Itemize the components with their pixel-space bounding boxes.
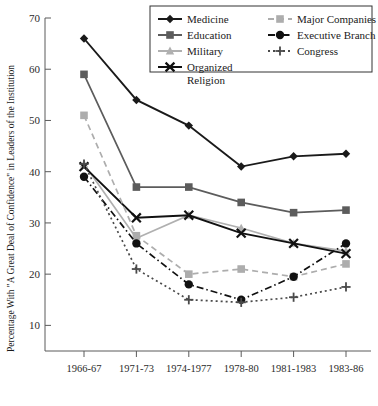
- x-tick-label: 1971-73: [119, 363, 154, 374]
- legend-marker: [166, 15, 174, 23]
- x-tick-label: 1981-1983: [271, 363, 317, 374]
- legend-marker: [276, 15, 284, 23]
- x-tick-label: 1974-1977: [166, 363, 212, 374]
- legend-label: Executive Branch: [297, 29, 376, 41]
- series-military: [80, 160, 350, 255]
- data-point: [185, 270, 193, 278]
- series-line: [84, 74, 346, 212]
- legend-label: Organized: [187, 61, 233, 73]
- data-point: [184, 295, 193, 304]
- data-point: [237, 199, 245, 207]
- legend-label: Education: [187, 29, 232, 41]
- data-point: [80, 173, 88, 181]
- data-point: [237, 265, 245, 273]
- data-point: [341, 282, 350, 291]
- legend-item-organized[interactable]: Organized: [158, 61, 233, 73]
- series-executive-branch: [80, 173, 350, 304]
- legend-marker: [275, 46, 284, 55]
- legend-marker: [276, 31, 284, 39]
- data-point: [133, 183, 141, 191]
- legend-item-executive-branch[interactable]: Executive Branch: [268, 29, 376, 41]
- series-major-companies: [80, 112, 350, 281]
- legend-item-major-companies[interactable]: Major Companies: [268, 13, 376, 25]
- chart-container: Percentage With "A Great Deal of Confide…: [0, 0, 378, 406]
- legend-item-education[interactable]: Education: [158, 29, 232, 41]
- data-point: [289, 152, 297, 160]
- data-point: [342, 150, 350, 158]
- y-tick-label: 30: [29, 217, 41, 229]
- y-tick-label: 70: [29, 12, 41, 24]
- legend-item-congress[interactable]: Congress: [268, 45, 338, 57]
- x-axis-ticks: 1966-671971-731974-19771978-801981-19831…: [67, 351, 364, 374]
- y-tick-label: 60: [29, 63, 41, 75]
- y-tick-label: 10: [29, 319, 41, 331]
- series-congress: [79, 159, 350, 307]
- series-organized-religion: [80, 162, 351, 258]
- data-point: [80, 112, 88, 120]
- y-axis-title: Percentage With "A Great Deal of Confide…: [6, 65, 16, 352]
- data-point: [289, 293, 298, 302]
- data-point: [132, 239, 140, 247]
- data-point: [133, 232, 141, 240]
- x-tick-label: 1983-86: [329, 363, 364, 374]
- legend-label: Military: [187, 45, 224, 57]
- legend-entries: MedicineEducationMilitaryOrganizedMajor …: [158, 13, 376, 86]
- data-point: [185, 280, 193, 288]
- data-point: [342, 206, 350, 214]
- legend-item-medicine[interactable]: Medicine: [158, 13, 229, 25]
- legend-item-military[interactable]: Military: [158, 45, 224, 57]
- data-point: [132, 264, 141, 273]
- series-line: [84, 115, 346, 276]
- series-education: [80, 71, 350, 217]
- legend-marker: [166, 31, 174, 39]
- legend-label: Major Companies: [297, 13, 376, 25]
- y-axis-ticks: 10203040506070: [29, 12, 51, 331]
- confidence-in-institutions-line-chart: Percentage With "A Great Deal of Confide…: [0, 0, 378, 406]
- data-point: [80, 71, 88, 79]
- data-point: [342, 239, 350, 247]
- x-tick-label: 1978-80: [224, 363, 259, 374]
- series-line: [84, 167, 346, 254]
- data-point: [290, 209, 298, 217]
- data-point: [289, 273, 297, 281]
- data-point: [185, 183, 193, 191]
- legend-label: Medicine: [187, 13, 229, 25]
- y-tick-label: 20: [29, 268, 41, 280]
- legend-label-religion-line2: Religion: [187, 74, 225, 86]
- series-line: [84, 38, 346, 166]
- legend-label: Congress: [297, 45, 338, 57]
- data-point: [342, 260, 350, 268]
- x-tick-label: 1966-67: [67, 363, 102, 374]
- y-tick-label: 40: [29, 166, 41, 178]
- series-line: [84, 164, 346, 302]
- y-tick-label: 50: [29, 114, 41, 126]
